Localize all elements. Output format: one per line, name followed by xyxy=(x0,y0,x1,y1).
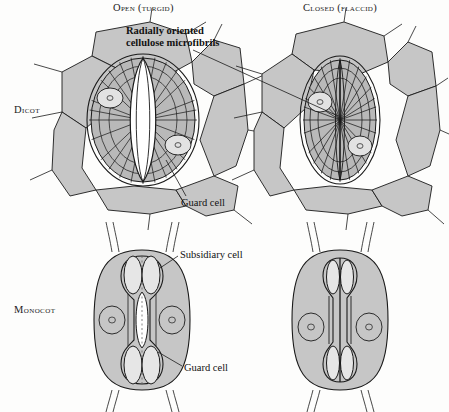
annotation-line-2: cellulose microfibrils xyxy=(126,37,219,49)
annotation-cellulose-microfibrils: Radially oriented cellulose microfibrils xyxy=(126,25,219,48)
guard-cell-bulb xyxy=(341,260,354,294)
guard-cell-bulb xyxy=(142,256,160,294)
row-label-monocot: Monocot xyxy=(14,304,55,315)
guard-cell-bulb xyxy=(327,260,340,294)
row-label-dicot: Dicot xyxy=(14,104,40,115)
annotation-guard-cell-monocot: Guard cell xyxy=(184,362,228,373)
nucleus xyxy=(348,136,372,156)
annotation-guard-cell-dicot: Guard cell xyxy=(181,197,225,208)
annotation-subsidiary-cell: Subsidiary cell xyxy=(180,249,243,260)
guard-cell-bulb xyxy=(341,346,354,380)
guard-cell-bulb xyxy=(142,346,160,384)
column-header-closed: Closed (flaccid) xyxy=(303,2,377,13)
guard-cell-bulb xyxy=(124,346,142,384)
nucleus xyxy=(165,135,191,155)
nucleus xyxy=(308,92,332,112)
nucleus xyxy=(97,88,123,108)
guard-cell-bulb xyxy=(327,346,340,380)
guard-cell-bulb xyxy=(124,256,142,294)
annotation-line-1: Radially oriented xyxy=(126,25,219,37)
column-header-open: Open (turgid) xyxy=(113,2,174,13)
